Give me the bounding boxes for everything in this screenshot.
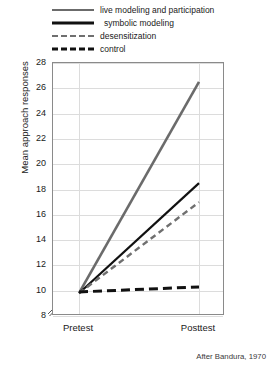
gridline-horizontal	[53, 316, 223, 317]
y-axis-tick-label: 28	[22, 57, 46, 67]
x-axis-tick-label: Pretest	[63, 322, 93, 333]
plot-area	[52, 62, 224, 315]
y-axis-tick-label: 22	[22, 133, 46, 143]
y-axis-tick-label: 8	[22, 310, 46, 320]
x-axis-tick-label: Posttest	[181, 322, 215, 333]
series-line	[79, 287, 199, 292]
source-note: After Bandura, 1970	[196, 352, 266, 361]
series-line	[79, 202, 199, 293]
y-axis-tick-label: 18	[22, 184, 46, 194]
y-axis-tick-label: 14	[22, 234, 46, 244]
chart-figure: live modeling and participation symbolic…	[0, 0, 272, 376]
y-axis-tick-label: 16	[22, 209, 46, 219]
y-axis-tick-label: 12	[22, 259, 46, 269]
y-axis-tick-label: 20	[22, 158, 46, 168]
data-series-layer	[53, 63, 225, 316]
series-line	[79, 183, 199, 293]
y-axis-tick-label: 24	[22, 108, 46, 118]
y-axis-tick-label: 10	[22, 285, 46, 295]
series-line	[79, 82, 199, 293]
y-axis-tick-label: 26	[22, 82, 46, 92]
